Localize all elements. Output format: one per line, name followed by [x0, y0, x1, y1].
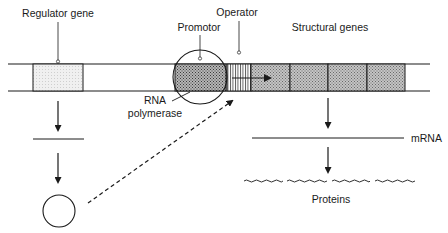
regulator-gene-label: Regulator gene [22, 7, 94, 19]
rna-label: RNA [144, 94, 166, 106]
repressor-protein-circle [43, 195, 75, 227]
promotor-segment [175, 64, 226, 91]
mrna-label: mRNA [411, 132, 442, 144]
structural-gene-4 [367, 64, 405, 91]
operator-label: Operator [216, 6, 258, 18]
structural-genes-segments [251, 64, 405, 91]
operon-diagram: Regulator gene Promotor Operator Structu… [0, 0, 448, 233]
protein-chain-1 [244, 180, 283, 182]
protein-chain-2 [287, 180, 327, 182]
promotor-label: Promotor [177, 21, 221, 33]
structural-gene-2 [290, 64, 328, 91]
protein-chain-3 [332, 180, 370, 182]
structural-genes-label: Structural genes [292, 21, 368, 33]
protein-chain-4 [375, 180, 415, 182]
proteins-label: Proteins [312, 193, 351, 205]
protein-chains [244, 180, 415, 182]
polymerase-label: polymerase [128, 107, 182, 119]
regulator-gene-segment [33, 64, 83, 91]
structural-gene-3 [328, 64, 367, 91]
